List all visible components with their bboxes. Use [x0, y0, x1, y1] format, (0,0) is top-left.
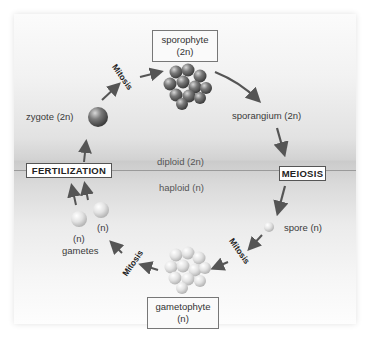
arrow-sporophyte-to-sporangium [215, 72, 258, 100]
spore-label: spore (n) [284, 222, 322, 233]
arrow-gamete2-to-fertilization [85, 185, 88, 200]
spore-cell [264, 222, 274, 232]
gametophyte-cell-cluster [165, 247, 212, 295]
arrow-gametophyte-to-mitosis [142, 265, 158, 270]
sporangium-label: sporangium (2n) [232, 110, 301, 121]
arrow-mitosis-to-gametophyte [214, 262, 228, 268]
arrow-meiosis-to-spore [278, 186, 285, 212]
sporophyte-box: sporophyte (2n) [152, 30, 218, 62]
zygote-label: zygote (2n) [26, 111, 74, 122]
arrow-mitosis-to-sporophyte [140, 72, 160, 77]
gamete-cell-2 [93, 202, 109, 218]
gametophyte-label: gametophyte [148, 301, 218, 313]
sporophyte-cell-cluster [164, 64, 213, 111]
gamete-ploidy-label-1: (n) [97, 222, 109, 233]
diploid-zone-label: diploid (2n) [157, 156, 204, 167]
arrow-fertilization-to-zygote [84, 143, 86, 162]
haploid-zone-label: haploid (n) [159, 182, 204, 193]
sporophyte-ploidy: (2n) [153, 46, 217, 58]
gametophyte-box: gametophyte (n) [147, 297, 219, 329]
gamete-cell-1 [71, 211, 87, 227]
arrow-sporangium-to-meiosis [277, 128, 284, 153]
arrow-mitosis-to-gametes [112, 243, 122, 253]
gamete-ploidy-label-2: (n) [73, 233, 85, 244]
sporophyte-label: sporophyte [153, 34, 217, 46]
arrow-gamete1-to-fertilization [72, 187, 76, 205]
arrow-spore-to-mitosis [250, 235, 262, 248]
gametes-label: gametes [62, 245, 98, 256]
zygote-cell [88, 107, 108, 127]
fertilization-stage: FERTILIZATION [26, 163, 112, 178]
meiosis-stage: MEIOSIS [279, 166, 326, 181]
arrow-zygote-to-mitosis [102, 85, 118, 100]
gametophyte-ploidy: (n) [148, 313, 218, 325]
